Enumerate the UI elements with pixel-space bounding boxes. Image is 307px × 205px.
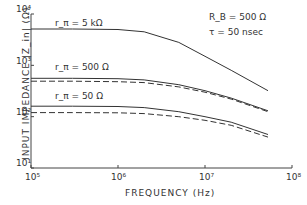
x-tick-1e5: 10⁵ xyxy=(25,172,40,182)
x-tick-1e8: 10⁸ xyxy=(286,172,301,182)
y-tick-1e1: 10¹ xyxy=(16,158,31,168)
tau-annotation: τ = 50 nsec xyxy=(209,27,263,37)
y-axis-title: INPUT IMPEDANCE |Z_in| (Ω) xyxy=(21,20,31,160)
curve-label-50: r_π = 50 Ω xyxy=(55,91,103,101)
curve-3 xyxy=(31,106,268,134)
x-tick-1e6: 10⁶ xyxy=(111,172,126,182)
curve-label-5k: r_π = 5 kΩ xyxy=(55,18,103,28)
x-tick-1e7: 10⁷ xyxy=(199,172,214,182)
y-tick-1e3: 10³ xyxy=(16,56,31,66)
y-tick-1e2: 10² xyxy=(16,107,31,117)
rb-annotation: R_B = 500 Ω xyxy=(209,12,266,22)
curve-0 xyxy=(31,29,268,91)
curve-4 xyxy=(31,113,268,138)
x-axis-title: FREQUENCY (Hz) xyxy=(125,188,215,198)
y-tick-1e4: 10⁴ xyxy=(16,4,31,14)
curve-label-500: r_π = 500 Ω xyxy=(55,62,109,72)
curves xyxy=(31,29,268,137)
